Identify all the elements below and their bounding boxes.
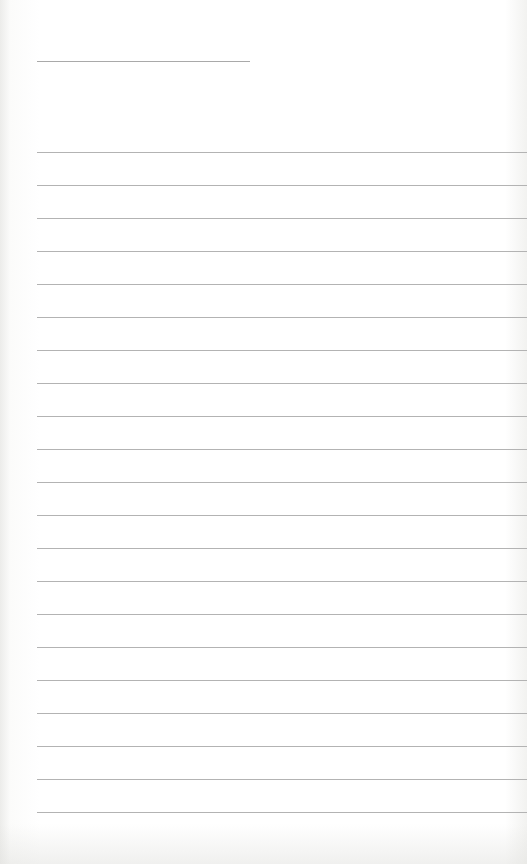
ruled-line [37, 713, 527, 714]
ruled-line [37, 614, 527, 615]
ruled-line [37, 284, 527, 285]
ruled-line [37, 185, 527, 186]
ruled-line [37, 350, 527, 351]
ruled-line [37, 647, 527, 648]
ruled-line [37, 680, 527, 681]
ruled-line [37, 482, 527, 483]
ruled-line [37, 581, 527, 582]
ruled-line [37, 746, 527, 747]
ruled-line [37, 416, 527, 417]
ruled-line [37, 251, 527, 252]
ruled-line [37, 449, 527, 450]
ruled-line [37, 317, 527, 318]
title-line [37, 61, 250, 62]
lined-paper-sheet [0, 0, 527, 864]
ruled-line [37, 548, 527, 549]
ruled-line [37, 779, 527, 780]
ruled-line [37, 218, 527, 219]
ruled-line [37, 812, 527, 813]
ruled-line [37, 383, 527, 384]
ruled-line [37, 515, 527, 516]
ruled-line [37, 152, 527, 153]
